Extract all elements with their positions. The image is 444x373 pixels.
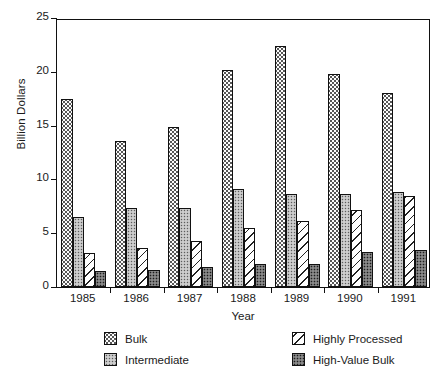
- x-tick-label: 1990: [322, 292, 378, 304]
- bar: [73, 217, 84, 287]
- bar: [351, 210, 362, 287]
- legend-item: Highly Processed: [292, 328, 402, 349]
- bar: [255, 264, 266, 287]
- y-tick-label: 15: [23, 118, 49, 130]
- chart-legend: BulkIntermediate Highly ProcessedHigh-Va…: [0, 328, 444, 372]
- x-tick-label: 1989: [268, 292, 324, 304]
- y-tick-mark: [51, 18, 57, 19]
- legend-item: Bulk: [104, 328, 189, 349]
- legend-swatch-icon: [292, 332, 305, 345]
- bar-chart: Billion Dollars 0510152025 1985198619871…: [0, 0, 444, 373]
- bar: [382, 93, 393, 287]
- legend-label: Highly Processed: [313, 333, 402, 345]
- y-tick-mark: [51, 179, 57, 180]
- bar: [115, 141, 126, 287]
- y-tick-label: 20: [23, 64, 49, 76]
- x-tick-label: 1986: [108, 292, 164, 304]
- bar: [137, 248, 148, 287]
- legend-label: Intermediate: [125, 354, 189, 366]
- x-tick-label: 1991: [375, 292, 431, 304]
- bar: [362, 252, 373, 288]
- x-tick-label: 1985: [55, 292, 111, 304]
- legend-item: High-Value Bulk: [292, 349, 402, 370]
- legend-column-right: Highly ProcessedHigh-Value Bulk: [292, 328, 402, 370]
- plot-area: 0510152025: [56, 19, 430, 288]
- bar: [148, 270, 159, 287]
- bar: [340, 194, 351, 287]
- bar: [275, 46, 286, 287]
- bar: [286, 194, 297, 287]
- bar: [222, 70, 233, 287]
- bar: [84, 253, 95, 287]
- legend-label: Bulk: [125, 333, 147, 345]
- bar: [244, 228, 255, 287]
- legend-label: High-Value Bulk: [313, 354, 395, 366]
- y-tick-label: 25: [23, 10, 49, 22]
- legend-column-left: BulkIntermediate: [104, 328, 189, 370]
- y-tick-label: 5: [23, 225, 49, 237]
- bar: [95, 271, 106, 287]
- x-tick-label: 1988: [215, 292, 271, 304]
- bar: [415, 250, 426, 287]
- y-tick-mark: [51, 287, 57, 288]
- y-tick-label: 10: [23, 171, 49, 183]
- x-axis-title: Year: [56, 310, 430, 322]
- bar: [297, 221, 308, 287]
- bar: [309, 264, 320, 287]
- legend-swatch-icon: [104, 353, 117, 366]
- legend-item: Intermediate: [104, 349, 189, 370]
- y-tick-label: 0: [23, 279, 49, 291]
- bar: [328, 74, 339, 287]
- x-tick-label: 1987: [162, 292, 218, 304]
- bar: [191, 241, 202, 287]
- bar: [233, 189, 244, 287]
- y-tick-mark: [51, 126, 57, 127]
- bar: [126, 208, 137, 287]
- y-tick-mark: [51, 233, 57, 234]
- bar: [404, 196, 415, 287]
- bar: [61, 99, 72, 287]
- bar: [202, 267, 213, 287]
- legend-swatch-icon: [104, 332, 117, 345]
- bar: [179, 208, 190, 287]
- legend-swatch-icon: [292, 353, 305, 366]
- y-tick-mark: [51, 72, 57, 73]
- bar: [393, 192, 404, 287]
- bar: [168, 127, 179, 287]
